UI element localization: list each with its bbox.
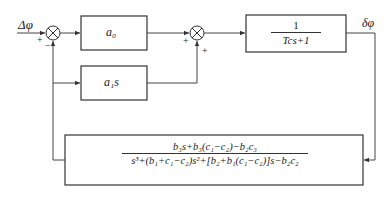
plant-denominator: Tcs+1 xyxy=(271,33,321,46)
plant-numerator: 1 xyxy=(271,19,321,33)
feedback-numerator: b₃s+b₃(c₁−c₂)−b₂c₃ xyxy=(122,141,308,154)
sum2-plus-sign-left: + xyxy=(183,35,189,46)
block-feedback: b₃s+b₃(c₁−c₂)−b₂c₃ s³+(b₁+c₁−c₂)s²+[b₂+b… xyxy=(122,141,308,166)
feedback-denominator: s³+(b₁+c₁−c₂)s²+[b₂+b₁(c₁−c₂)]s−b₂c₂ xyxy=(122,154,308,166)
sum2-plus-sign-bottom: + xyxy=(202,45,208,56)
block-a0: a₀ xyxy=(106,25,116,40)
input-label: Δφ xyxy=(18,17,33,33)
sum1-plus-sign: + xyxy=(37,34,43,45)
block-diagram-lines xyxy=(0,0,388,197)
sum1-minus-sign: − xyxy=(45,40,51,51)
block-a1s: a₁s xyxy=(104,75,119,90)
output-label: δφ xyxy=(362,16,374,31)
block-plant: 1 Tcs+1 xyxy=(271,19,321,46)
